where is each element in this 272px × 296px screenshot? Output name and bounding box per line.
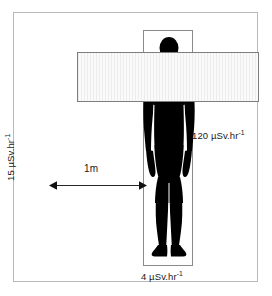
dose-rate-label-side: 120 µSv.hr-1 [192,131,245,141]
distance-dimension-arrow [48,177,148,194]
dose-rate-left-text: 15 µSv.hr [5,140,16,181]
diagram-frame: 120 µSv.hr-1 4 µSv.hr-1 15 µSv.hr-1 1m [13,12,258,282]
dose-rate-side-text: 120 µSv.hr [192,130,238,141]
shielding-bar [77,52,259,102]
dose-rate-left-exponent: -1 [4,134,11,140]
distance-label: 1m [84,163,98,174]
dose-rate-bottom-text: 4 µSv.hr [141,271,177,282]
dose-rate-side-exponent: -1 [238,129,244,136]
dose-rate-bottom-exponent: -1 [177,270,183,277]
dose-rate-label-bottom: 4 µSv.hr-1 [141,272,183,282]
radiation-dose-diagram: 120 µSv.hr-1 4 µSv.hr-1 15 µSv.hr-1 1m [0,0,272,296]
dose-rate-label-left: 15 µSv.hr-1 [6,134,16,181]
